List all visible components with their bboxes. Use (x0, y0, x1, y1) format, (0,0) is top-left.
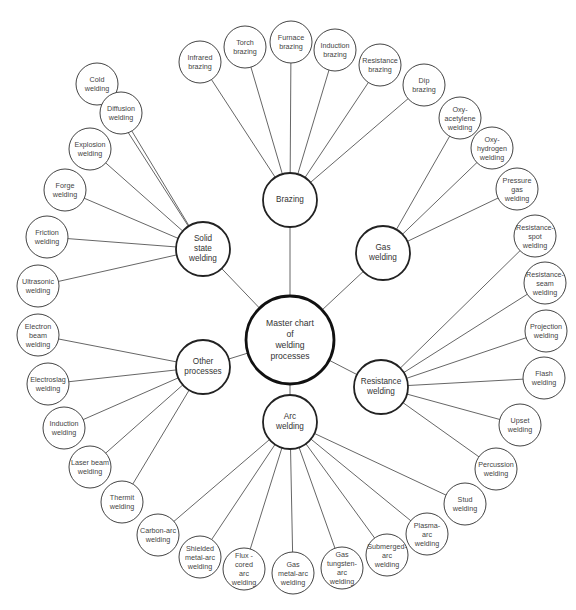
node-upset-welding (499, 404, 541, 446)
welding-process-diagram (0, 0, 576, 610)
node-pressure-gas-welding (496, 168, 538, 210)
node-carbon-arc-welding (137, 514, 179, 556)
node-ultrasonic-welding (17, 265, 59, 307)
node-gas-tungsten-arc-welding (321, 547, 363, 589)
node-other (176, 340, 230, 394)
node-induction-brazing (314, 29, 356, 71)
node-flash-welding (523, 357, 565, 399)
node-furnace-brazing (270, 21, 312, 63)
node-resistance-spot-welding (514, 215, 556, 257)
node-solid (176, 222, 230, 276)
node-gas (356, 226, 410, 280)
node-electron-beam-welding (17, 314, 59, 356)
node-resistance-brazing (359, 44, 401, 86)
node-friction-welding (26, 216, 68, 258)
node-brazing (263, 173, 317, 227)
node-dip-brazing (403, 64, 445, 106)
node-percussion-welding (475, 448, 517, 490)
node-resistance-seam-welding (524, 262, 566, 304)
node-resistance (354, 360, 408, 414)
node-plasma-arc-welding (406, 513, 448, 555)
node-shielded-metal-arc-welding (179, 536, 221, 578)
node-thermit-welding (101, 481, 143, 523)
node-forge-welding (44, 169, 86, 211)
node-infrared-brazing (179, 41, 221, 83)
node-flux-cored-arc-welding (223, 548, 265, 590)
node-master (246, 296, 334, 384)
node-laser-beam-welding (69, 446, 111, 488)
node-explosion-welding (69, 128, 111, 170)
node-stud-welding (444, 483, 486, 525)
node-oxy-acetylene-welding (439, 97, 481, 139)
node-projection-welding (525, 310, 567, 352)
node-induction-welding (43, 407, 85, 449)
node-submerged-arc-welding (366, 534, 408, 576)
node-gas-metal-arc-welding (272, 552, 314, 594)
node-electroslag-welding (27, 363, 69, 405)
node-arc (263, 395, 317, 449)
node-diffusion-welding (100, 92, 142, 134)
node-oxy-hydrogen-welding (471, 127, 513, 169)
edge-resistance-resistance-seam-welding (381, 283, 545, 387)
edge-arc-stud-welding (290, 422, 465, 504)
node-torch-brazing (224, 26, 266, 68)
